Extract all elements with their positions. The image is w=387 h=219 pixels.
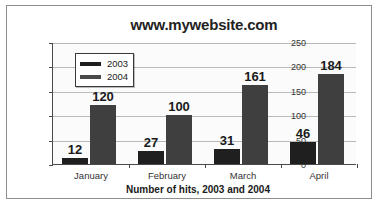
bar-group: 31161 <box>205 43 281 164</box>
bar-2003-february: 27 <box>138 151 164 164</box>
legend-swatch-icon <box>80 62 101 66</box>
bar-group: 46184 <box>281 43 357 164</box>
x-category-label: March <box>230 170 256 181</box>
bar-value-label: 31 <box>220 133 234 148</box>
chart-frame: www.mywebsite.com 050100150200250 121202… <box>6 5 372 199</box>
bar-value-label: 46 <box>296 126 310 141</box>
chart-title: www.mywebsite.com <box>7 16 371 33</box>
x-category-label: January <box>74 170 108 181</box>
legend-swatch-icon <box>80 75 101 79</box>
legend-label: 2003 <box>107 58 128 69</box>
y-tick-mark <box>49 165 53 166</box>
bar-2003-april: 46 <box>290 142 316 164</box>
bar-value-label: 12 <box>68 142 82 157</box>
bar-value-label: 120 <box>92 89 114 104</box>
legend-item-2003: 2003 <box>80 57 128 70</box>
chart-legend: 20032004 <box>75 53 134 87</box>
legend-item-2004: 2004 <box>80 70 128 83</box>
bar-2003-march: 31 <box>214 149 240 164</box>
x-tick-mark <box>281 164 282 168</box>
plot-area: 050100150200250 12120271003116146184 Jan… <box>52 43 356 165</box>
x-tick-mark <box>205 164 206 168</box>
x-tick-mark <box>129 164 130 168</box>
x-category-label: April <box>309 170 328 181</box>
legend-label: 2004 <box>107 71 128 82</box>
bar-value-label: 100 <box>168 99 190 114</box>
bar-value-label: 184 <box>320 58 342 73</box>
bar-2003-january: 12 <box>62 158 88 164</box>
bar-2004-february: 100 <box>166 115 192 164</box>
bar-2004-april: 184 <box>318 74 344 164</box>
plot-wrapper: 050100150200250 12120271003116146184 Jan… <box>52 43 356 165</box>
bar-2004-january: 120 <box>90 105 116 164</box>
bar-2004-march: 161 <box>242 85 268 164</box>
bar-group: 27100 <box>129 43 205 164</box>
x-category-label: February <box>148 170 186 181</box>
x-axis-title: Number of hits, 2003 and 2004 <box>7 184 371 195</box>
x-tick-mark <box>357 164 358 168</box>
bar-value-label: 161 <box>244 69 266 84</box>
bar-value-label: 27 <box>144 135 158 150</box>
